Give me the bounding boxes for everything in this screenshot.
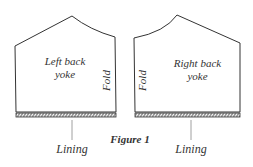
right-fold-label: Fold xyxy=(136,66,149,96)
figure-caption: Figure 1 xyxy=(100,133,160,146)
right-piece-label-line2: yoke xyxy=(160,70,235,83)
left-lining-label: Lining xyxy=(47,143,97,156)
left-piece-label: Left back yoke xyxy=(30,55,100,81)
left-piece-label-line2: yoke xyxy=(30,68,100,81)
left-piece-label-line1: Left back xyxy=(30,55,100,68)
right-lining-label: Lining xyxy=(166,143,216,156)
right-piece-label: Right back yoke xyxy=(160,57,235,83)
left-fold-label: Fold xyxy=(100,66,113,96)
right-piece-label-line1: Right back xyxy=(160,57,235,70)
